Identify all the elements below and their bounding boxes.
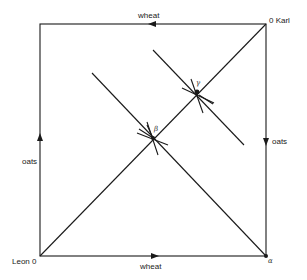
axis-label-left-oats: oats (22, 158, 37, 166)
axis-label-right-oats: oats (272, 138, 287, 146)
arrow-up-icon (37, 133, 43, 141)
axis-label-top-wheat: wheat (138, 12, 159, 20)
beta-tangency-marks (137, 122, 168, 155)
alpha-beta-line (92, 73, 266, 256)
arrow-left-icon (148, 21, 156, 27)
gamma-line (153, 50, 244, 145)
arrow-down-icon (263, 138, 269, 146)
label-beta: β (154, 126, 158, 133)
label-gamma: γ (196, 80, 200, 87)
arrow-right-icon (151, 253, 159, 259)
edgeworth-box-diagram (0, 0, 307, 280)
origin-label-leon: Leon 0 (12, 258, 36, 266)
label-alpha: α (268, 258, 273, 265)
origin-label-karl: 0 Karl (269, 17, 290, 25)
axis-label-bottom-wheat: wheat (140, 263, 161, 271)
